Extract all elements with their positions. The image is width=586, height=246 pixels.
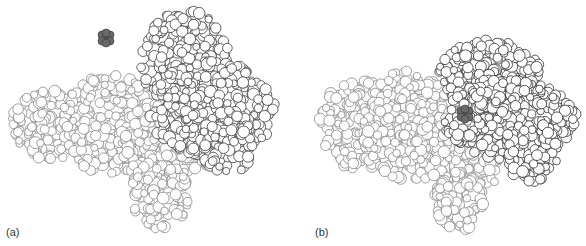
panel-label-a: (a) — [6, 226, 19, 238]
ligand — [457, 105, 473, 123]
panel-label-b: (b) — [315, 226, 328, 238]
ligand — [98, 29, 114, 47]
small-domain — [137, 6, 279, 175]
panel-a: (a) — [0, 0, 293, 246]
molecule-model-b — [293, 0, 586, 246]
molecule-model-a — [0, 0, 293, 246]
panel-b: (b) — [293, 0, 586, 246]
